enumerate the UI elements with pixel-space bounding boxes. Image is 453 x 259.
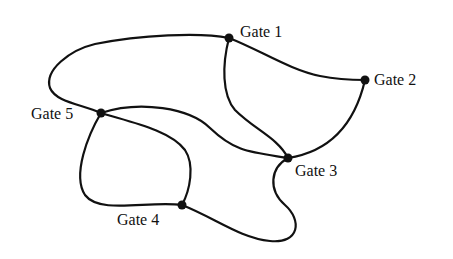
edge-g5-g4-right [101, 113, 191, 205]
edge-g4-g3 [182, 158, 296, 241]
edge-g1-g3 [224, 38, 288, 158]
gate-graph [0, 0, 453, 259]
gate-4-label: Gate 4 [117, 212, 159, 228]
gate-5-node [97, 109, 106, 118]
edge-g2-g3 [288, 80, 365, 158]
gate-1-label: Gate 1 [240, 24, 282, 40]
gate-1-node [225, 34, 234, 43]
edge-g5-g3-upper [101, 107, 288, 158]
edge-g1-g2 [229, 38, 365, 80]
gate-4-node [178, 201, 187, 210]
edge-g5-g4-left [80, 113, 182, 206]
gate-2-node [361, 76, 370, 85]
gate-5-label: Gate 5 [31, 106, 73, 122]
edge-g5-g1 [49, 35, 229, 113]
gate-3-label: Gate 3 [295, 163, 337, 179]
gate-3-node [284, 154, 293, 163]
gate-2-label: Gate 2 [374, 72, 416, 88]
